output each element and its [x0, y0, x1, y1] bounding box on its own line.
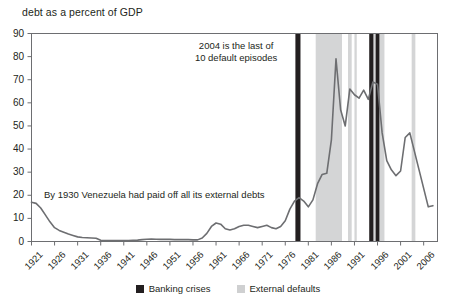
banking-crisis-band-2	[376, 34, 380, 242]
legend-external-defaults: External defaults	[237, 283, 321, 294]
y-tick-label-70: 70	[2, 74, 24, 85]
venezuela-debt-annotation: By 1930 Venezuela had paid off all its e…	[44, 189, 265, 201]
y-tick-label-20: 20	[2, 189, 24, 200]
legend-label-banking-crises: Banking crises	[149, 283, 211, 294]
default-episodes-annotation: 2004 is the last of 10 default episodes	[179, 40, 293, 64]
chart-legend: Banking crises External defaults	[0, 283, 456, 294]
y-tick-label-80: 80	[2, 51, 24, 62]
external-default-band-0	[316, 34, 342, 242]
external-default-band-4	[412, 34, 416, 242]
legend-swatch-external-defaults	[237, 285, 245, 293]
legend-label-external-defaults: External defaults	[250, 283, 321, 294]
annotation-line-2: 10 default episodes	[179, 52, 293, 64]
y-tick-label-0: 0	[2, 236, 24, 247]
external-default-band-1	[348, 34, 352, 242]
y-tick-label-60: 60	[2, 97, 24, 108]
external-default-band-2	[354, 34, 356, 242]
y-tick-label-30: 30	[2, 166, 24, 177]
y-tick-label-40: 40	[2, 143, 24, 154]
annotation-line-1: 2004 is the last of	[179, 40, 293, 52]
y-tick-label-50: 50	[2, 120, 24, 131]
y-tick-label-10: 10	[2, 212, 24, 223]
y-tick-label-90: 90	[2, 28, 24, 39]
chart-figure: debt as a percent of GDP 010203040506070…	[0, 0, 456, 304]
legend-swatch-banking-crises	[136, 285, 144, 293]
banking-crisis-band-0	[295, 34, 300, 242]
legend-banking-crises: Banking crises	[136, 283, 211, 294]
banking-crisis-band-1	[369, 34, 373, 242]
